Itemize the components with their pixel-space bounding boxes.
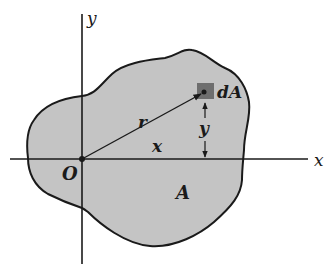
- diagram-canvas: [0, 0, 335, 271]
- y-distance-label: y: [199, 120, 209, 137]
- element-centroid-dot: [202, 90, 207, 95]
- y-axis-label: y: [87, 10, 97, 27]
- area-region: [27, 50, 249, 247]
- x-axis-label: x: [314, 152, 324, 169]
- region-label: A: [176, 184, 190, 202]
- origin-label: O: [62, 165, 78, 183]
- vector-r-label: r: [138, 114, 147, 131]
- element-label: dA: [217, 84, 242, 101]
- x-distance-label: x: [152, 138, 162, 155]
